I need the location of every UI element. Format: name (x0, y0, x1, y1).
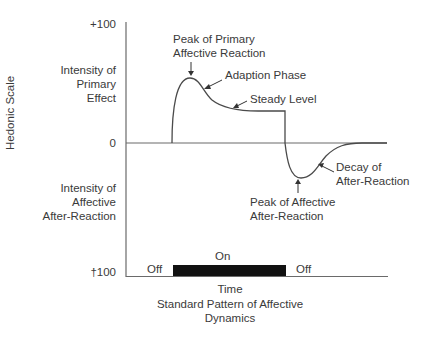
arrow-decay-icon (318, 163, 334, 172)
stimulus-on: On (215, 249, 230, 263)
primary-reaction-curve (172, 78, 285, 143)
arrow-peak-after-icon (295, 179, 301, 193)
annotation-steady-level: Steady Level (250, 92, 317, 106)
stimulus-off-before: Off (147, 262, 162, 276)
diagram-title: Standard Pattern of Affective Dynamics (140, 297, 320, 325)
annotation-adaption-phase: Adaption Phase (225, 68, 306, 82)
y-tick-top: +100 (60, 17, 116, 31)
annotation-peak-after: Peak of Affective After-Reaction (250, 195, 335, 223)
after-reaction-label: Intensity of Affective After-Reaction (20, 181, 116, 223)
arrow-peak-primary-icon (188, 62, 194, 76)
y-axis-label: Hedonic Scale (4, 76, 16, 150)
arrow-steady-icon (233, 101, 247, 108)
stimulus-off-after: Off (296, 262, 311, 276)
primary-effect-label: Intensity of Primary Effect (30, 63, 116, 105)
y-tick-zero: 0 (60, 136, 116, 150)
y-tick-bottom: †100 (60, 265, 116, 279)
stimulus-on-bar (173, 265, 286, 276)
annotation-decay: Decay of After-Reaction (336, 160, 410, 188)
arrow-adaption-icon (204, 80, 222, 89)
x-axis-label: Time (200, 282, 260, 296)
annotation-peak-primary: Peak of Primary Affective Reaction (173, 32, 265, 60)
